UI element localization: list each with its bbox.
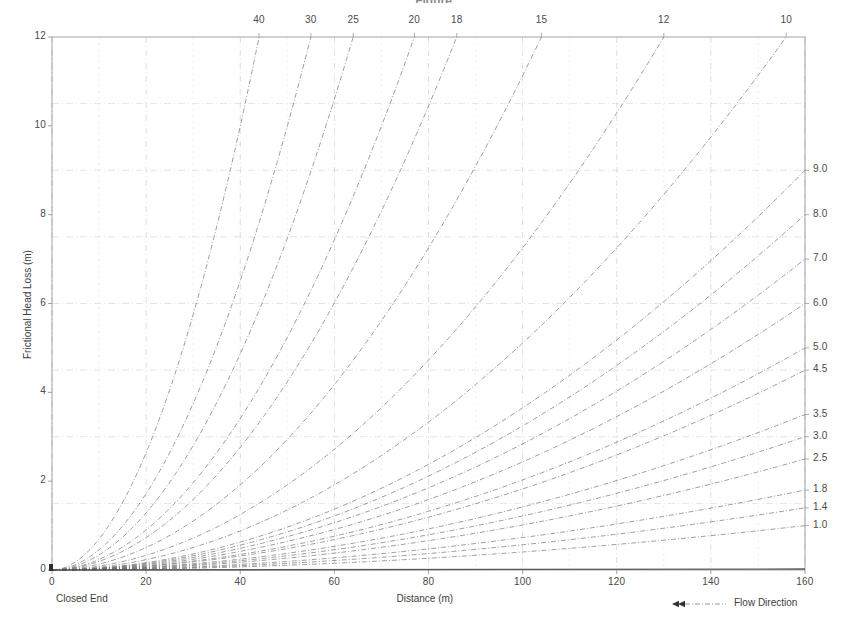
x-tick-label: 40 [231, 576, 249, 587]
x-top-tick-label: 15 [531, 14, 551, 25]
x-axis-title: Distance (m) [397, 593, 454, 604]
closed-end-annotation: Closed End [56, 593, 108, 604]
y-right-tick-label: 1.4 [813, 501, 828, 512]
y-right-tick-label: 2.5 [813, 452, 828, 463]
y-tick-label: 0 [28, 563, 46, 574]
y-right-tick-label: 7.0 [813, 252, 828, 263]
flow-direction-legend-label: Flow Direction [734, 597, 797, 608]
x-tick-label: 160 [796, 576, 814, 587]
y-right-tick-label: 1.0 [813, 519, 828, 530]
closed-end-marker [49, 564, 53, 571]
y-right-tick-label: 9.0 [813, 163, 828, 174]
flow-arrow-icon-2 [678, 601, 685, 607]
y-tick-label: 10 [28, 119, 46, 130]
x-top-tick-label: 40 [249, 14, 269, 25]
y-tick-label: 8 [28, 208, 46, 219]
flow-arrow-icon [672, 601, 679, 607]
x-tick-label: 120 [608, 576, 626, 587]
x-tick-label: 0 [43, 576, 61, 587]
y-right-tick-label: 6.0 [813, 297, 828, 308]
y-right-tick-label: 8.0 [813, 208, 828, 219]
x-tick-label: 80 [420, 576, 438, 587]
flow-direction-legend [672, 601, 726, 607]
y-tick-label: 12 [28, 30, 46, 41]
y-right-tick-label: 3.0 [813, 430, 828, 441]
x-top-tick-label: 25 [343, 14, 363, 25]
y-right-tick-label: 4.5 [813, 363, 828, 374]
x-top-tick-label: 18 [447, 14, 467, 25]
y-right-tick-label: 5.0 [813, 341, 828, 352]
y-tick-label: 2 [28, 474, 46, 485]
x-top-tick-label: 30 [301, 14, 321, 25]
y-right-tick-label: 1.8 [813, 483, 828, 494]
x-top-tick-label: 20 [404, 14, 424, 25]
data-curves [49, 37, 805, 571]
x-top-tick-label: 10 [776, 14, 796, 25]
x-tick-label: 20 [137, 576, 155, 587]
x-tick-label: 140 [702, 576, 720, 587]
chart-figure: Figure 0204060801001201401600246810129.0… [0, 0, 867, 626]
x-tick-label: 100 [514, 576, 532, 587]
y-tick-label: 4 [28, 385, 46, 396]
x-tick-label: 60 [325, 576, 343, 587]
gridlines [52, 37, 805, 570]
y-axis-title: Frictional Head Loss (m) [22, 250, 33, 359]
x-top-tick-label: 12 [654, 14, 674, 25]
y-right-tick-label: 3.5 [813, 408, 828, 419]
plot-canvas [0, 0, 867, 626]
